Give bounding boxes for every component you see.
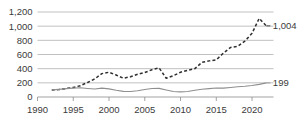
x-axis-tick-label: 1995 bbox=[63, 104, 84, 115]
y-axis-tick-label: 400 bbox=[17, 63, 33, 74]
line-chart: 02004006008001,0001,200 1990199520002005… bbox=[0, 0, 304, 134]
y-axis-tick-label: 200 bbox=[17, 77, 33, 88]
y-axis-labels: 02004006008001,0001,200 bbox=[9, 6, 33, 102]
dashed-series-end-label: 1,004 bbox=[273, 20, 297, 31]
x-axis-tick-label: 2010 bbox=[170, 104, 191, 115]
series-dashed-series bbox=[52, 18, 267, 90]
x-axis-labels: 1990199520002005201020152020 bbox=[27, 104, 263, 115]
y-axis-tick-label: 600 bbox=[17, 49, 33, 60]
chart-canvas: 02004006008001,0001,200 1990199520002005… bbox=[0, 0, 304, 134]
data-series bbox=[52, 18, 271, 92]
gridlines bbox=[38, 12, 274, 83]
x-axis-tick-label: 2005 bbox=[134, 104, 155, 115]
x-axis-tick-label: 2015 bbox=[206, 104, 227, 115]
x-axis-tick-label: 1990 bbox=[27, 104, 48, 115]
y-axis-tick-label: 1,000 bbox=[9, 21, 33, 32]
y-axis-tick-label: 0 bbox=[27, 91, 32, 102]
x-axis-tick-label: 2000 bbox=[98, 104, 119, 115]
y-axis-tick-label: 1,200 bbox=[9, 6, 33, 17]
x-axis bbox=[38, 97, 274, 101]
y-axis-tick-label: 800 bbox=[17, 35, 33, 46]
x-axis-tick-label: 2020 bbox=[241, 104, 262, 115]
solid-series-end-label: 199 bbox=[273, 77, 289, 88]
series-end-labels: 1,004199 bbox=[273, 20, 297, 88]
